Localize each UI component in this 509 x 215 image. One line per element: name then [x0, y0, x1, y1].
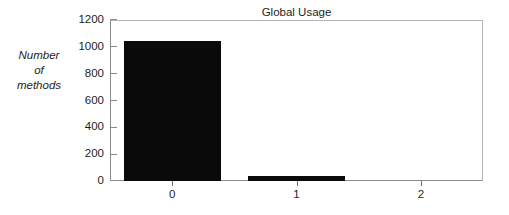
y-axis-title-line-3: methods: [6, 78, 72, 93]
y-axis-tick-label: 0: [66, 175, 104, 187]
y-axis-tick-label: 400: [66, 121, 104, 133]
y-axis-tick-label-wrap: 200: [62, 148, 104, 160]
y-axis-tick-label: 1000: [66, 41, 104, 53]
x-axis-tick-label: 0: [152, 188, 192, 201]
y-axis-tick-label: 200: [66, 148, 104, 160]
x-axis-tick-mark: [297, 181, 298, 186]
bar-0: [124, 41, 221, 181]
bar-chart-figure: Global Usage Number of methods 020040060…: [0, 0, 509, 215]
y-axis-tick-mark: [110, 100, 117, 101]
x-axis-tick-label: 2: [401, 188, 441, 201]
y-axis-tick-mark: [110, 154, 117, 155]
y-axis-tick-label: 600: [66, 95, 104, 107]
y-axis-tick-mark: [110, 127, 117, 128]
y-axis-tick-label-wrap: 0: [62, 175, 104, 187]
y-axis-tick-label-wrap: 400: [62, 121, 104, 133]
y-axis-tick-mark: [110, 180, 117, 181]
y-axis-tick-label-wrap: 800: [62, 68, 104, 80]
x-axis-tick-mark: [172, 181, 173, 186]
x-axis-tick-mark: [421, 181, 422, 186]
bar-1: [248, 176, 345, 181]
y-axis-tick-mark: [110, 73, 117, 74]
y-axis-tick-label-wrap: 1000: [62, 41, 104, 53]
chart-title: Global Usage: [110, 5, 483, 19]
y-axis-tick-label: 1200: [66, 14, 104, 26]
y-axis-tick-label-wrap: 1200: [62, 14, 104, 26]
y-axis-tick-label-wrap: 600: [62, 95, 104, 107]
x-axis-tick-label: 1: [277, 188, 317, 201]
y-axis-tick-mark: [110, 19, 117, 20]
y-axis-tick-label: 800: [66, 68, 104, 80]
y-axis-tick-mark: [110, 46, 117, 47]
